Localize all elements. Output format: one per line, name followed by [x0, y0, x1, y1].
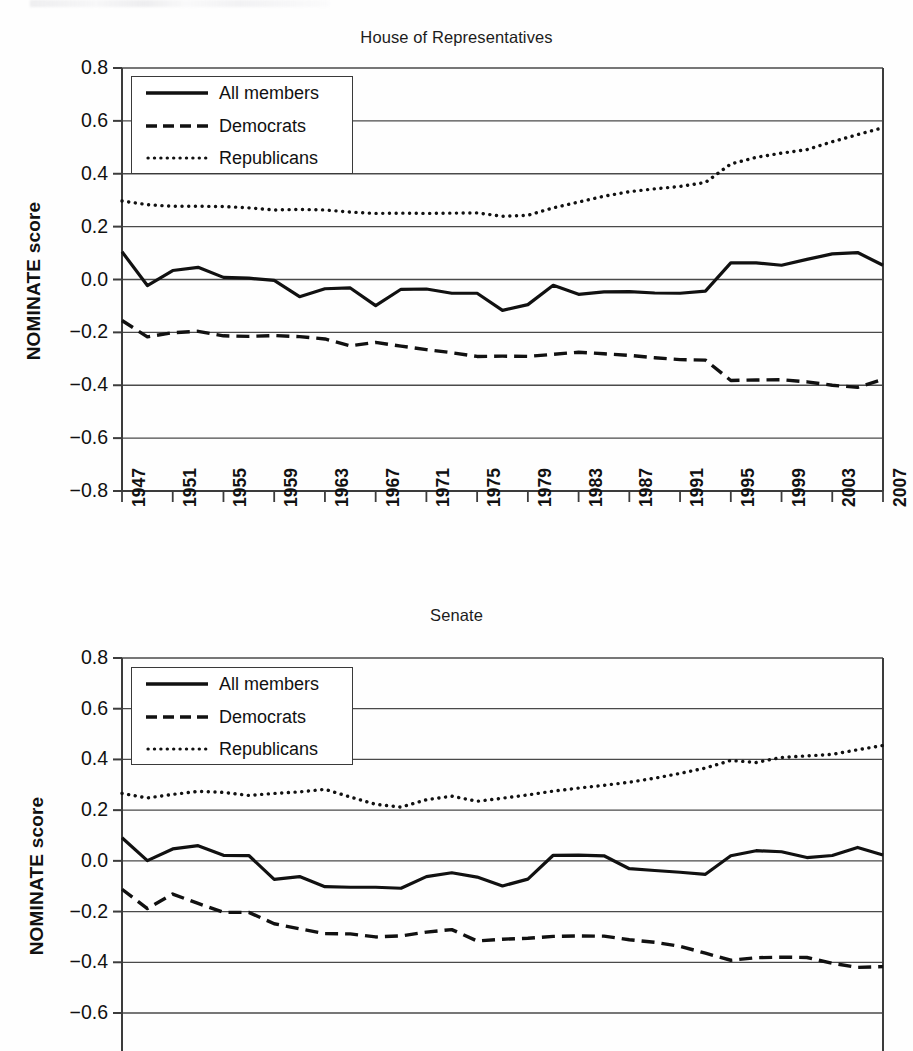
- solid-line-key: [144, 86, 210, 100]
- solid-line-key: [144, 677, 210, 691]
- y-axis-tick-label: 0.8: [26, 56, 108, 79]
- y-axis-tick-label: 0.4: [26, 162, 108, 185]
- x-axis-tick-label: 1971: [433, 468, 454, 507]
- y-axis-tick-label: −0.4: [26, 373, 108, 396]
- y-axis-tick-label: −0.8: [26, 479, 108, 502]
- senate-legend: All members Democrats Republicans: [131, 667, 353, 765]
- y-axis-tick-label: 0.4: [26, 747, 108, 770]
- dotted-line-key: [144, 151, 210, 165]
- series-line-dashed: [122, 889, 883, 967]
- x-axis-tick-label: 1983: [586, 468, 607, 507]
- x-axis-tick-label: 1963: [332, 468, 353, 507]
- series-line-solid: [122, 252, 883, 311]
- legend-row-democrats: Democrats: [132, 701, 352, 734]
- legend-row-democrats: Democrats: [132, 110, 352, 143]
- legend-row-all-members: All members: [132, 77, 352, 110]
- house-legend: All members Democrats Republicans: [131, 76, 353, 174]
- x-axis-tick-label: 1995: [738, 468, 759, 507]
- legend-label-democrats: Democrats: [219, 708, 306, 726]
- y-axis-tick-label: 0.2: [26, 215, 108, 238]
- senate-chart: Senate All members Democrats Republicans: [0, 600, 913, 1051]
- x-axis-tick-label: 1999: [789, 468, 810, 507]
- x-axis-tick-label: 1947: [129, 468, 150, 507]
- legend-row-republicans: Republicans: [132, 733, 352, 766]
- y-axis-tick-label: −0.6: [26, 1001, 108, 1024]
- x-axis-tick-label: 1959: [281, 468, 302, 507]
- series-line-solid: [122, 838, 883, 888]
- figure-page: House of Representatives NOMINATE score …: [0, 0, 913, 1051]
- y-axis-tick-label: 0.0: [26, 268, 108, 291]
- dashed-line-key: [144, 119, 210, 133]
- y-axis-tick-label: −0.6: [26, 426, 108, 449]
- x-axis-tick-label: 1987: [636, 468, 657, 507]
- x-axis-tick-label: 2003: [839, 468, 860, 507]
- house-chart: House of Representatives NOMINATE score …: [0, 0, 913, 600]
- legend-label-all-members: All members: [219, 675, 319, 693]
- series-line-dashed: [122, 320, 883, 387]
- dashed-line-key: [144, 710, 210, 724]
- legend-label-democrats: Democrats: [219, 117, 306, 135]
- y-axis-tick-label: −0.2: [26, 320, 108, 343]
- legend-label-all-members: All members: [219, 84, 319, 102]
- x-axis-tick-label: 2007: [890, 468, 911, 507]
- senate-y-axis-label: NOMINATE score: [26, 796, 48, 956]
- x-axis-tick-label: 1955: [230, 468, 251, 507]
- legend-label-republicans: Republicans: [219, 149, 318, 167]
- x-axis-tick-label: 1991: [687, 468, 708, 507]
- legend-row-all-members: All members: [132, 668, 352, 701]
- y-axis-tick-label: 0.6: [26, 109, 108, 132]
- x-axis-tick-label: 1979: [535, 468, 556, 507]
- x-axis-tick-label: 1967: [383, 468, 404, 507]
- x-axis-tick-label: 1951: [180, 468, 201, 507]
- x-axis-tick-label: 1975: [484, 468, 505, 507]
- dotted-line-key: [144, 742, 210, 756]
- y-axis-tick-label: 0.8: [26, 646, 108, 669]
- legend-row-republicans: Republicans: [132, 142, 352, 175]
- legend-label-republicans: Republicans: [219, 740, 318, 758]
- y-axis-tick-label: 0.6: [26, 697, 108, 720]
